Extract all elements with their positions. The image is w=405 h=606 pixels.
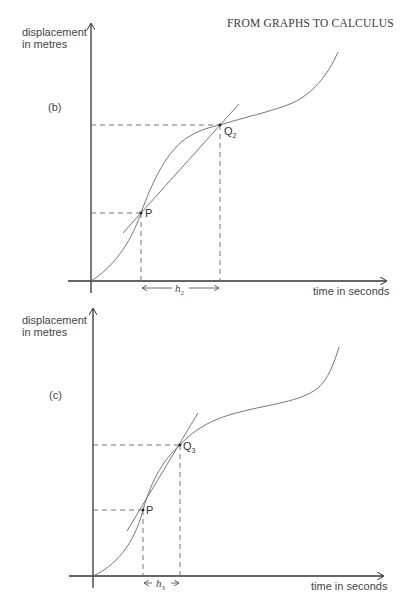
y-axis-label-c-line2: in metres <box>22 326 87 338</box>
point-q3-label: Q3 <box>183 440 195 454</box>
point-q3-subscript: 3 <box>192 447 196 454</box>
y-axis-label-b-line1: displacement <box>22 26 87 38</box>
interval-h2-subscript: 2 <box>181 289 185 297</box>
textbook-page: FROM GRAPHS TO CALCULUS <box>0 0 405 606</box>
point-q2 <box>219 124 222 127</box>
graphs-canvas <box>0 0 405 606</box>
y-axis-label-c-line1: displacement <box>22 314 87 326</box>
panel-label-b: (b) <box>48 101 61 113</box>
y-axis-label-b-line2: in metres <box>22 38 87 50</box>
y-axis-label-b: displacement in metres <box>22 26 87 50</box>
point-p-label-c: P <box>146 504 153 516</box>
chord-pq3 <box>127 413 198 531</box>
y-axis-label-c: displacement in metres <box>22 314 87 338</box>
interval-h3-subscript: 3 <box>162 584 166 592</box>
point-p-b <box>140 212 143 215</box>
point-q3-letter: Q <box>183 440 192 452</box>
x-axis-label-c: time in seconds <box>311 580 387 592</box>
point-q2-subscript: 2 <box>233 132 237 139</box>
interval-h2-label: h2 <box>175 282 184 297</box>
point-p-c <box>142 509 145 512</box>
point-q2-letter: Q <box>224 125 233 137</box>
point-p-label-b: P <box>145 207 152 219</box>
interval-h3-label: h3 <box>156 577 165 592</box>
displacement-curve-c <box>93 347 339 576</box>
displacement-curve-b <box>91 52 338 281</box>
x-axis-label-b: time in seconds <box>313 285 389 297</box>
graph-b <box>68 24 386 293</box>
point-q3 <box>179 444 182 447</box>
point-q2-label: Q2 <box>224 125 236 139</box>
panel-label-c: (c) <box>49 389 62 401</box>
graph-c <box>69 309 383 588</box>
